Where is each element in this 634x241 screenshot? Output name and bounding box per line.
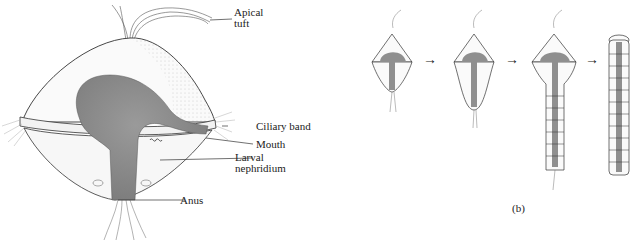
trochophore-larva bbox=[2, 5, 253, 240]
apical-tuft bbox=[112, 5, 212, 40]
stage-2 bbox=[454, 10, 494, 128]
label-ciliary-band: Ciliary band bbox=[256, 121, 311, 132]
stage-4 bbox=[609, 35, 629, 175]
arrow-icon: → bbox=[505, 54, 519, 65]
label-mouth: Mouth bbox=[256, 139, 285, 150]
stage-3 bbox=[532, 10, 576, 190]
arrow-icon: → bbox=[423, 54, 437, 65]
label-tuft: tuft bbox=[234, 18, 263, 29]
stage-1 bbox=[372, 10, 412, 112]
label-apical-tuft: Apical tuft bbox=[234, 7, 263, 29]
developmental-sequence bbox=[372, 10, 629, 190]
label-nephridium: nephridium bbox=[235, 163, 286, 174]
diagram-canvas bbox=[0, 0, 634, 241]
label-larval-nephridium: Larval nephridium bbox=[235, 152, 286, 174]
arrow-icon: → bbox=[585, 54, 599, 65]
panel-b-caption: (b) bbox=[512, 203, 525, 214]
label-anus: Anus bbox=[180, 195, 203, 206]
